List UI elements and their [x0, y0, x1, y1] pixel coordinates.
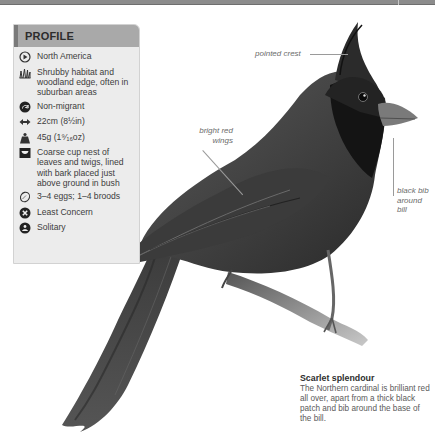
- profile-item-habitat: Shrubby habitat and woodland edge, often…: [19, 67, 135, 98]
- profile-title: PROFILE: [25, 30, 74, 42]
- crest-leader-line: [310, 54, 348, 55]
- profile-item-status: Least Concern: [19, 207, 135, 219]
- globe-range-icon: [19, 51, 31, 63]
- grass-habitat-icon: [19, 67, 31, 79]
- bib-leader-line: [393, 138, 394, 196]
- caption: Scarlet splendour The Northern cardinal …: [300, 373, 430, 424]
- conservation-status-icon: [19, 207, 31, 219]
- caption-title: Scarlet splendour: [300, 373, 430, 384]
- profile-item-eggs: 3–4 eggs; 1–4 broods: [19, 191, 135, 203]
- profile-item-text: Coarse cup nest of leaves and twigs, lin…: [37, 147, 135, 188]
- annotation-crest: pointed crest: [255, 49, 301, 59]
- egg-icon: [19, 191, 31, 203]
- profile-list: North America Shrubby habitat and woodla…: [14, 47, 139, 234]
- annotation-bib: black bib around bill: [397, 186, 433, 215]
- profile-item-length: 22cm (8½in): [19, 116, 135, 128]
- profile-item-text: North America: [37, 51, 91, 61]
- length-arrows-icon: [19, 116, 31, 128]
- profile-item-nest: Coarse cup nest of leaves and twigs, lin…: [19, 147, 135, 188]
- annotation-wings: bright red wings: [178, 126, 233, 145]
- migration-arrow-icon: [19, 101, 31, 113]
- nest-icon: [19, 147, 31, 159]
- profile-panel: PROFILE North America Shrubby habitat an…: [13, 24, 140, 264]
- profile-item-text: Non-migrant: [37, 101, 84, 111]
- profile-item-text: Shrubby habitat and woodland edge, often…: [37, 67, 135, 98]
- profile-header: PROFILE: [14, 25, 139, 47]
- profile-item-text: 22cm (8½in): [37, 116, 85, 126]
- weight-icon: [19, 132, 31, 144]
- profile-item-text: 3–4 eggs; 1–4 broods: [37, 191, 120, 201]
- profile-item-range: North America: [19, 51, 135, 63]
- profile-item-text: Least Concern: [37, 207, 93, 217]
- profile-item-migration: Non-migrant: [19, 101, 135, 113]
- profile-item-text: 45g (1⁹⁄₁₆oz): [37, 132, 85, 142]
- profile-item-weight: 45g (1⁹⁄₁₆oz): [19, 132, 135, 144]
- caption-body: The Northern cardinal is brilliant red a…: [300, 384, 430, 424]
- profile-item-social: Solitary: [19, 222, 135, 234]
- social-behaviour-icon: [19, 222, 31, 234]
- profile-item-text: Solitary: [37, 222, 66, 232]
